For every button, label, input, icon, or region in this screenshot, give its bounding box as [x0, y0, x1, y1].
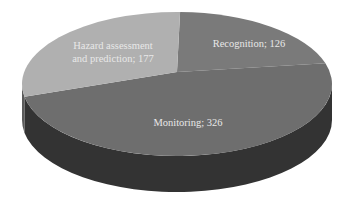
pie-chart: Recognition; 126 Monitoring; 326 Hazard … [0, 0, 349, 209]
label-monitoring: Monitoring; 326 [153, 117, 222, 128]
label-hazard-line2: and prediction; 177 [72, 53, 154, 64]
label-recognition: Recognition; 126 [213, 38, 286, 49]
label-hazard-line1: Hazard assessment [73, 40, 153, 51]
